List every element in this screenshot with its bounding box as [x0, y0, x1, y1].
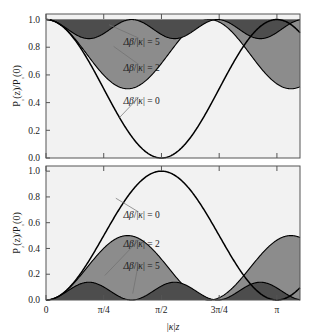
figure-container: 0.00.20.40.60.81.0P₁(z)/P₁(0)Δβ/|κ| = 5Δ… — [0, 0, 310, 334]
y-tick-label-lower-0: 0.0 — [28, 295, 40, 305]
x-axis-label: |κ|z — [167, 321, 180, 332]
y-tick-label-upper-4: 0.8 — [28, 42, 40, 52]
x-tick-label-0: 0 — [44, 305, 49, 315]
y-tick-label-upper-3: 0.6 — [28, 70, 40, 80]
y-tick-label-upper-1: 0.2 — [28, 126, 40, 136]
x-tick-label-3: 3π/4 — [211, 305, 228, 315]
y-axis-label-lower: P₂(z)/P₁(0) — [11, 212, 25, 254]
annotation-label-lower-2: Δβ/|κ| = 5 — [122, 261, 159, 271]
annotation-label-upper-1: Δβ/|κ| = 2 — [122, 63, 159, 73]
x-tick-label-4: π — [275, 305, 280, 315]
panel-lower: 0.00.20.40.60.81.0P₂(z)/P₁(0)Δβ/|κ| = 0Δ… — [11, 166, 300, 305]
coupled-mode-power-plot: 0.00.20.40.60.81.0P₁(z)/P₁(0)Δβ/|κ| = 5Δ… — [0, 0, 310, 334]
annotation-label-lower-0: Δβ/|κ| = 0 — [122, 210, 159, 220]
y-tick-label-upper-2: 0.4 — [28, 98, 40, 108]
annotation-label-upper-0: Δβ/|κ| = 5 — [122, 37, 159, 47]
y-tick-label-lower-5: 1.0 — [28, 166, 40, 176]
y-tick-label-lower-2: 0.4 — [28, 244, 40, 254]
panel-upper: 0.00.20.40.60.81.0P₁(z)/P₁(0)Δβ/|κ| = 5Δ… — [11, 14, 300, 163]
x-tick-label-1: π/4 — [98, 305, 110, 315]
y-tick-label-lower-4: 0.8 — [28, 192, 40, 202]
y-tick-label-lower-3: 0.6 — [28, 218, 40, 228]
x-tick-label-2: π/2 — [155, 305, 167, 315]
annotation-label-upper-2: Δβ/|κ| = 0 — [122, 96, 159, 106]
y-tick-label-lower-1: 0.2 — [28, 269, 40, 279]
y-tick-label-upper-0: 0.0 — [28, 153, 40, 163]
annotation-label-lower-1: Δβ/|κ| = 2 — [122, 239, 159, 249]
lower-band-delta-beta-5 — [46, 282, 300, 300]
y-tick-label-upper-5: 1.0 — [28, 15, 40, 25]
upper-band-delta-beta-5 — [46, 20, 300, 39]
y-axis-label-upper: P₁(z)/P₁(0) — [11, 65, 25, 107]
